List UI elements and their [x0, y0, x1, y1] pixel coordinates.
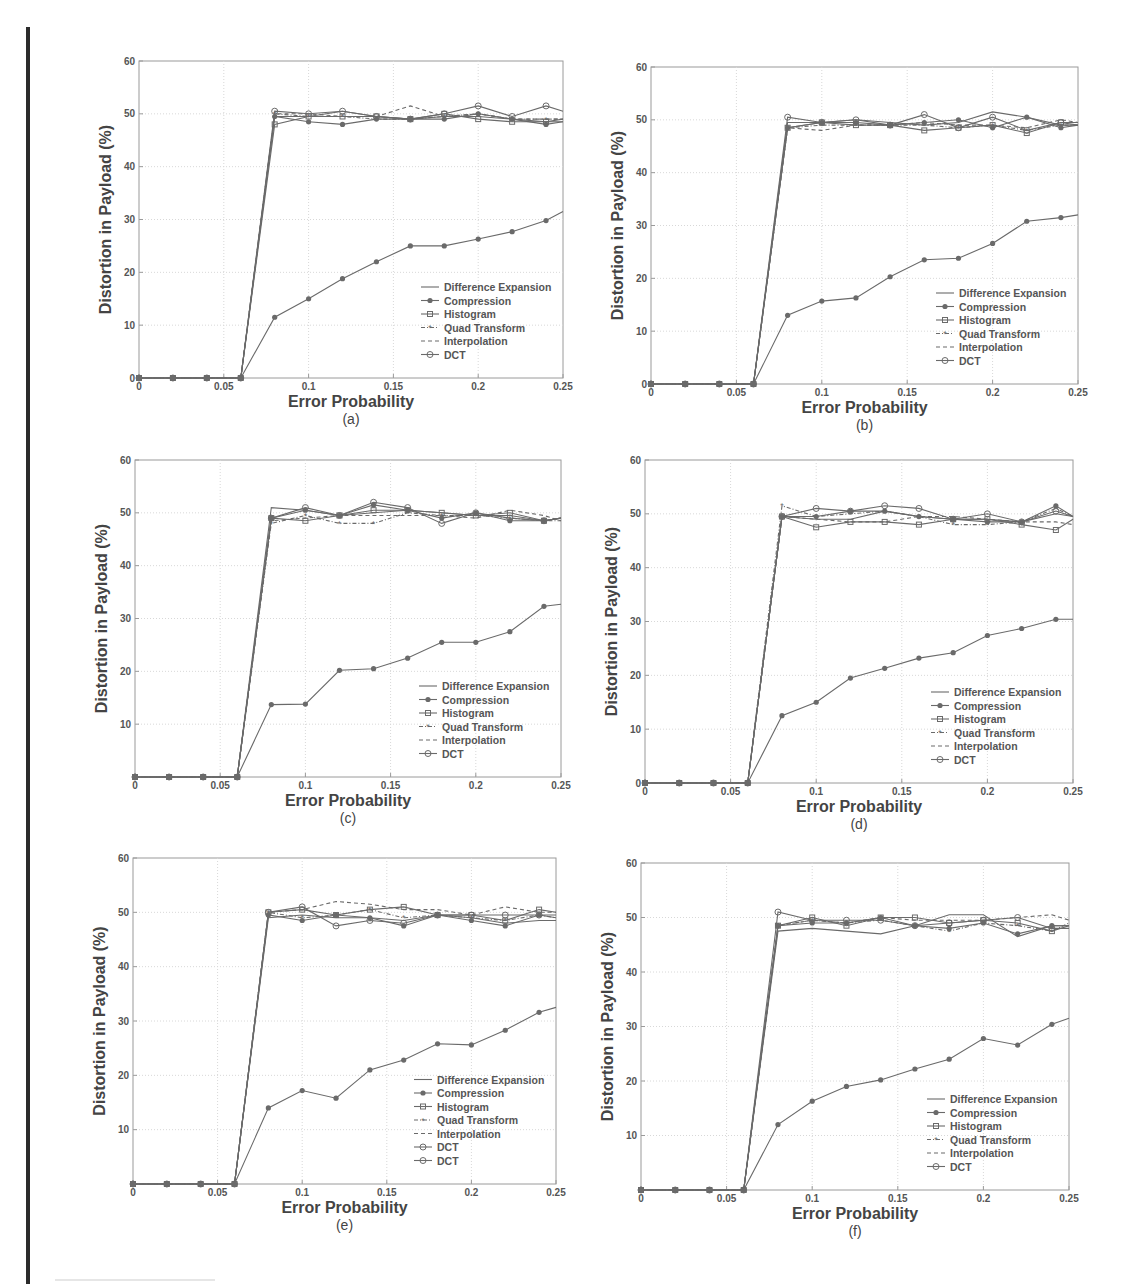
y-tick-label: 10 [118, 1124, 130, 1135]
x-tick-label: 0.1 [295, 1187, 309, 1198]
figure-panels: 00.050.10.150.20.250102030405060********… [0, 0, 1125, 1284]
chart-panel-a: 00.050.10.150.20.250102030405060********… [97, 56, 573, 428]
marker-filled-circle-icon [642, 780, 647, 785]
legend-label: Quad Transform [959, 328, 1040, 340]
marker-star-icon: * [934, 1135, 938, 1145]
x-axis-label: Error Probability [288, 393, 414, 410]
marker-star-icon: * [304, 511, 308, 521]
y-tick-label: 60 [630, 455, 642, 466]
legend-label: Difference Expansion [444, 281, 551, 293]
legend-label: DCT [954, 754, 976, 766]
marker-filled-circle-icon [882, 666, 887, 671]
panel-caption: (a) [342, 411, 359, 427]
legend-label: Interpolation [954, 740, 1018, 752]
y-tick-label: 20 [630, 670, 642, 681]
marker-filled-circle-icon [541, 604, 546, 609]
marker-star-icon: * [780, 501, 784, 511]
marker-filled-circle-icon [878, 1077, 883, 1082]
marker-star-icon: * [338, 519, 342, 529]
marker-filled-circle-icon [198, 1181, 203, 1186]
marker-filled-circle-icon [844, 1084, 849, 1089]
legend-label: Interpolation [437, 1128, 501, 1140]
legend-label: Difference Expansion [954, 686, 1061, 698]
marker-filled-circle-icon [1024, 219, 1029, 224]
marker-filled-circle-icon [337, 668, 342, 673]
legend-label: Quad Transform [437, 1114, 518, 1126]
y-tick-label: 20 [118, 1070, 130, 1081]
x-tick-label: 0.15 [892, 786, 912, 797]
x-tick-label: 0.2 [986, 387, 1000, 398]
x-tick-label: 0.05 [210, 780, 230, 791]
marker-filled-circle-icon [1015, 1042, 1020, 1047]
marker-filled-circle-icon [272, 315, 277, 320]
marker-filled-circle-icon [401, 1058, 406, 1063]
marker-filled-circle-icon [374, 259, 379, 264]
x-axis-label: Error Probability [801, 399, 927, 416]
marker-filled-circle-icon [775, 1122, 780, 1127]
marker-filled-circle-icon [677, 780, 682, 785]
panel-caption: (c) [340, 810, 356, 826]
marker-filled-circle-icon [303, 701, 308, 706]
legend-label: DCT [442, 748, 464, 760]
y-axis-label: Distortion in Payload (%) [97, 125, 114, 314]
legend-label: Compression [444, 295, 511, 307]
legend-label: Histogram [950, 1120, 1002, 1132]
marker-filled-circle-icon [717, 381, 722, 386]
legend-label: Compression [959, 301, 1026, 313]
marker-filled-circle-icon [638, 1187, 643, 1192]
y-tick-label: 20 [636, 273, 648, 284]
marker-star-icon: * [402, 913, 406, 923]
marker-star-icon: * [1016, 921, 1020, 931]
marker-filled-circle-icon [922, 257, 927, 262]
x-tick-label: 0.25 [1063, 786, 1083, 797]
legend-label: Interpolation [444, 335, 508, 347]
marker-filled-circle-icon [888, 274, 893, 279]
marker-filled-circle-icon [367, 1067, 372, 1072]
x-tick-label: 0.25 [546, 1187, 566, 1198]
marker-filled-circle-icon [507, 629, 512, 634]
x-tick-label: 0.1 [302, 381, 316, 392]
y-axis-label: Distortion in Payload (%) [599, 932, 616, 1121]
marker-filled-circle-icon [751, 381, 756, 386]
x-axis-label: Error Probability [792, 1205, 918, 1222]
legend-label: Difference Expansion [959, 287, 1066, 299]
marker-filled-circle-icon [814, 700, 819, 705]
legend-label: Interpolation [442, 734, 506, 746]
legend-label: Compression [442, 694, 509, 706]
marker-filled-circle-icon [745, 780, 750, 785]
marker-filled-circle-icon [848, 675, 853, 680]
y-tick-label: 40 [630, 562, 642, 573]
y-axis-label: Distortion in Payload (%) [93, 524, 110, 713]
marker-filled-circle-icon [427, 298, 432, 303]
marker-filled-circle-icon [947, 1057, 952, 1062]
y-tick-label: 40 [118, 961, 130, 972]
marker-filled-circle-icon [1053, 617, 1058, 622]
legend-label: Difference Expansion [950, 1093, 1057, 1105]
marker-filled-circle-icon [707, 1187, 712, 1192]
panel-caption: (d) [850, 816, 867, 832]
marker-filled-circle-icon [232, 1181, 237, 1186]
marker-filled-circle-icon [130, 1181, 135, 1186]
y-tick-label: 30 [626, 1021, 638, 1032]
marker-filled-circle-icon [166, 774, 171, 779]
y-axis-label: Distortion in Payload (%) [609, 131, 626, 320]
x-tick-label: 0.1 [805, 1193, 819, 1204]
x-tick-label: 0.05 [208, 1187, 228, 1198]
x-tick-label: 0.25 [553, 381, 573, 392]
marker-filled-circle-icon [503, 1028, 508, 1033]
y-tick-label: 0 [129, 373, 135, 384]
panel-caption: (e) [336, 1217, 353, 1233]
y-tick-label: 50 [636, 114, 648, 125]
marker-filled-circle-icon [425, 697, 430, 702]
marker-filled-circle-icon [439, 640, 444, 645]
y-tick-label: 10 [636, 326, 648, 337]
marker-filled-circle-icon [1024, 115, 1029, 120]
legend-label: Difference Expansion [442, 680, 549, 692]
legend-label: Compression [954, 700, 1021, 712]
legend-label: Compression [950, 1107, 1017, 1119]
marker-filled-circle-icon [1015, 931, 1020, 936]
marker-filled-circle-icon [956, 256, 961, 261]
marker-filled-circle-icon [1049, 1022, 1054, 1027]
legend-label: Histogram [437, 1101, 489, 1113]
marker-star-icon: * [421, 1116, 425, 1126]
